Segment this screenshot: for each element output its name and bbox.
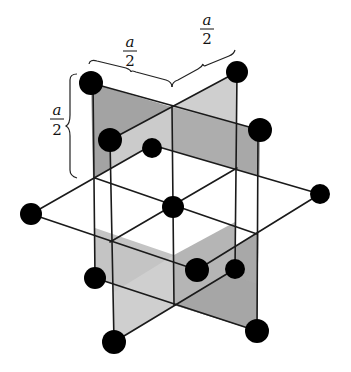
label-left-denominator: 2	[52, 121, 62, 139]
label-top-right: a 2	[200, 11, 214, 48]
atom-top-right	[226, 61, 248, 83]
lattice-diagram: a 2 a 2 a 2	[0, 0, 351, 372]
label-top-left: a 2	[123, 33, 137, 70]
label-left: a 2	[50, 101, 64, 139]
label-left-numerator: a	[53, 101, 62, 119]
brace-left	[66, 74, 77, 178]
label-top-left-numerator: a	[126, 33, 135, 51]
atom-left-lower	[84, 267, 106, 289]
atom-center	[162, 196, 184, 218]
atom-left-inner	[98, 128, 122, 152]
atom-front-lower	[185, 258, 209, 282]
label-top-right-numerator: a	[203, 11, 212, 29]
atom-right-lower-inner	[225, 259, 245, 279]
atom-bottom-right	[245, 319, 269, 343]
atom-right-horizontal	[310, 184, 330, 204]
atom-back-inner	[142, 138, 162, 158]
label-top-right-denominator: 2	[202, 30, 212, 48]
atom-bottom-left	[102, 330, 126, 354]
atom-top-left	[79, 71, 103, 95]
atom-left-horizontal	[20, 203, 42, 225]
label-top-left-denominator: 2	[125, 52, 135, 70]
atom-right-upper	[248, 118, 272, 142]
